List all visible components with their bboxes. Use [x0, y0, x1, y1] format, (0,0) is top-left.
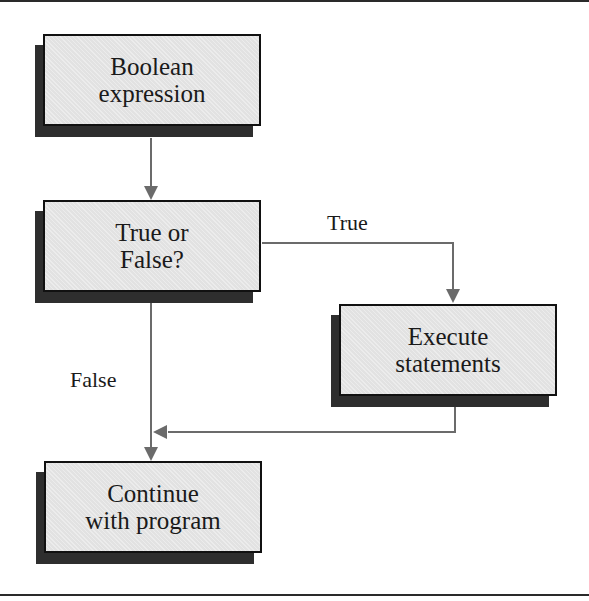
node-continue-with-program: Continue with program: [44, 461, 262, 553]
node-box: Continue with program: [44, 461, 262, 553]
node-text-line: Boolean: [99, 53, 206, 80]
node-true-or-false: True or False?: [43, 200, 261, 292]
node-text-line: with program: [85, 507, 220, 534]
arrowhead-down-icon: [144, 447, 158, 461]
edge-execute-return: [168, 406, 455, 432]
edge-true-branch: [262, 243, 453, 290]
node-boolean-expression: Boolean expression: [43, 34, 261, 126]
node-text-line: False?: [115, 246, 188, 273]
node-text-line: True or: [115, 219, 188, 246]
node-execute-statements: Execute statements: [339, 304, 557, 396]
false-branch-label: False: [70, 368, 116, 392]
true-branch-label: True: [327, 211, 368, 235]
arrowhead-down-icon: [446, 289, 460, 303]
arrowhead-left-icon: [153, 425, 167, 439]
node-text-line: expression: [99, 80, 206, 107]
node-box: Execute statements: [339, 304, 557, 396]
bottom-rule: [0, 594, 589, 596]
node-box: Boolean expression: [43, 34, 261, 126]
node-text-line: Execute: [395, 323, 501, 350]
node-text-line: statements: [395, 350, 501, 377]
node-box: True or False?: [43, 200, 261, 292]
arrowhead-down-icon: [144, 186, 158, 200]
node-text-line: Continue: [85, 480, 220, 507]
